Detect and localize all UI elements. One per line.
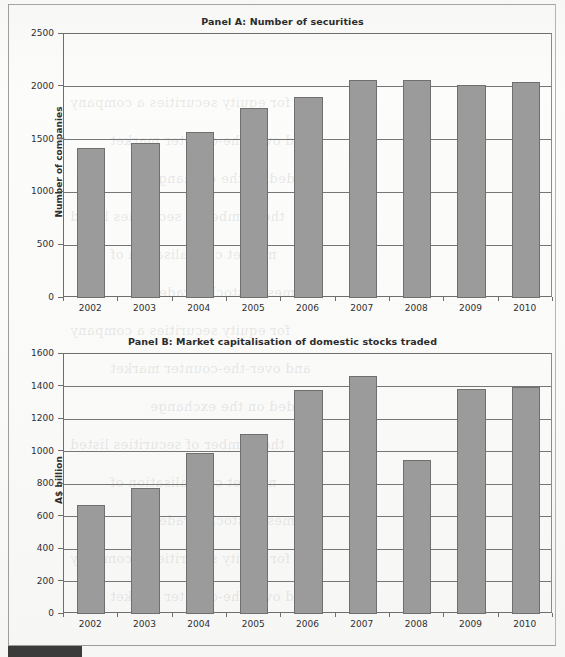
- x-tick-mark: [117, 613, 118, 617]
- x-tick-mark: [552, 297, 553, 301]
- x-tick-label: 2004: [172, 619, 226, 629]
- x-tick-mark: [63, 613, 64, 617]
- y-tick-label: 1500: [0, 134, 54, 144]
- y-tick-mark: [58, 33, 63, 34]
- y-tick-label: 2500: [0, 28, 54, 38]
- x-tick-label: 2005: [226, 303, 280, 313]
- x-tick-label: 2010: [498, 303, 552, 313]
- y-tick-label: 800: [0, 478, 54, 488]
- panel-b-title: Panel B: Market capitalisation of domest…: [0, 336, 565, 347]
- bar: [240, 108, 268, 298]
- x-tick-mark: [280, 297, 281, 301]
- x-tick-mark: [389, 613, 390, 617]
- bar: [240, 434, 268, 614]
- bar: [403, 80, 431, 298]
- x-tick-mark: [117, 297, 118, 301]
- x-tick-label: 2002: [63, 619, 117, 629]
- x-tick-label: 2005: [226, 619, 280, 629]
- x-tick-mark: [63, 297, 64, 301]
- y-tick-label: 1000: [0, 186, 54, 196]
- y-tick-mark: [58, 353, 63, 354]
- x-tick-label: 2009: [443, 303, 497, 313]
- x-tick-mark: [552, 613, 553, 617]
- y-tick-label: 2000: [0, 81, 54, 91]
- bar: [294, 390, 322, 614]
- gridline: [64, 386, 551, 387]
- x-tick-mark: [389, 297, 390, 301]
- bar: [131, 143, 159, 298]
- chart-panel-b: Panel B: Market capitalisation of domest…: [0, 330, 565, 657]
- x-tick-label: 2007: [335, 303, 389, 313]
- y-tick-label: 1400: [0, 381, 54, 391]
- bar: [294, 97, 322, 298]
- x-tick-mark: [280, 613, 281, 617]
- y-tick-mark: [58, 548, 63, 549]
- y-tick-label: 500: [0, 239, 54, 249]
- x-tick-mark: [443, 297, 444, 301]
- x-tick-label: 2006: [280, 303, 334, 313]
- chart-panel-a: Panel A: Number of securities Number of …: [0, 0, 565, 330]
- y-tick-label: 1600: [0, 348, 54, 358]
- y-tick-mark: [58, 515, 63, 516]
- y-tick-mark: [58, 580, 63, 581]
- y-tick-label: 0: [0, 608, 54, 618]
- bar: [349, 80, 377, 298]
- y-tick-mark: [58, 85, 63, 86]
- x-tick-mark: [335, 297, 336, 301]
- x-tick-mark: [498, 297, 499, 301]
- x-tick-mark: [226, 613, 227, 617]
- y-tick-mark: [58, 244, 63, 245]
- x-tick-label: 2006: [280, 619, 334, 629]
- bar: [186, 453, 214, 614]
- x-tick-label: 2002: [63, 303, 117, 313]
- x-tick-label: 2008: [389, 303, 443, 313]
- x-tick-mark: [172, 297, 173, 301]
- bar: [77, 505, 105, 614]
- y-tick-mark: [58, 450, 63, 451]
- y-tick-label: 400: [0, 543, 54, 553]
- panel-a-plot-area: [63, 33, 552, 297]
- y-tick-mark: [58, 385, 63, 386]
- y-tick-label: 0: [0, 292, 54, 302]
- x-tick-label: 2009: [443, 619, 497, 629]
- bar: [186, 132, 214, 298]
- page-bottom-marker: [8, 646, 82, 657]
- x-tick-mark: [498, 613, 499, 617]
- x-tick-label: 2008: [389, 619, 443, 629]
- bar: [349, 376, 377, 614]
- bar: [457, 85, 485, 298]
- y-tick-mark: [58, 418, 63, 419]
- y-tick-mark: [58, 483, 63, 484]
- bar: [512, 82, 540, 298]
- y-tick-label: 1200: [0, 413, 54, 423]
- x-tick-mark: [335, 613, 336, 617]
- bar: [77, 148, 105, 298]
- x-tick-mark: [226, 297, 227, 301]
- x-tick-label: 2007: [335, 619, 389, 629]
- bar: [457, 389, 485, 614]
- y-tick-mark: [58, 191, 63, 192]
- x-tick-label: 2004: [172, 303, 226, 313]
- x-tick-label: 2003: [117, 619, 171, 629]
- x-tick-label: 2010: [498, 619, 552, 629]
- bar: [131, 488, 159, 614]
- y-tick-label: 600: [0, 511, 54, 521]
- y-tick-label: 200: [0, 576, 54, 586]
- x-tick-mark: [443, 613, 444, 617]
- bar: [403, 460, 431, 614]
- x-tick-label: 2003: [117, 303, 171, 313]
- x-tick-mark: [172, 613, 173, 617]
- panel-a-title: Panel A: Number of securities: [0, 16, 565, 27]
- y-tick-mark: [58, 138, 63, 139]
- bar: [512, 387, 540, 615]
- panel-b-plot-area: [63, 353, 552, 613]
- y-tick-label: 1000: [0, 446, 54, 456]
- scanned-page: for equity securities a companyand over-…: [0, 0, 565, 657]
